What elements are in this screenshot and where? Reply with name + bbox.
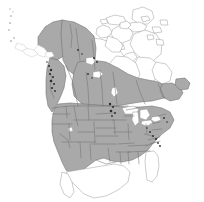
- range-map-figure: [0, 0, 204, 202]
- marker-north-1: [77, 49, 79, 51]
- marker-ne-2: [166, 121, 168, 123]
- arctic-islet-g: [156, 39, 164, 45]
- marker-north-6: [91, 77, 93, 79]
- marker-bc-1: [48, 65, 50, 67]
- marker-app-6: [159, 145, 161, 147]
- marker-app-2: [152, 135, 154, 137]
- north-america-map: [0, 0, 204, 202]
- marker-north-3: [93, 57, 95, 59]
- aleutian-speck-7: [12, 11, 13, 12]
- marker-central-2: [112, 106, 114, 108]
- great-salt-lake: [68, 127, 73, 132]
- arctic-islet-h: [147, 35, 154, 40]
- arctic-islet-f: [160, 20, 168, 25]
- marker-central-4: [114, 112, 116, 114]
- marker-north-2: [81, 53, 83, 55]
- marker-app-4: [157, 142, 159, 144]
- marker-bc-7: [51, 87, 53, 89]
- marker-bc-2: [50, 69, 52, 71]
- aleutian-speck-5: [10, 15, 12, 17]
- aleutian-speck-3: [8, 29, 10, 31]
- marker-central-3: [110, 110, 113, 113]
- aleutian-speck-1: [10, 40, 12, 42]
- aleutian-speck-6: [9, 8, 11, 10]
- marker-app-5: [146, 127, 148, 129]
- arctic-islet-c: [152, 27, 162, 33]
- marker-central-1: [109, 103, 111, 105]
- marker-bc-4: [52, 76, 54, 78]
- marker-bc-6: [53, 83, 55, 85]
- marker-central-5: [111, 115, 113, 117]
- aleutian-speck-2: [13, 37, 15, 39]
- marker-bc-8: [54, 90, 56, 92]
- marker-bc-9: [46, 61, 48, 63]
- marker-ne-1: [163, 117, 165, 119]
- marker-north-5: [87, 73, 89, 75]
- marker-app-1: [149, 131, 151, 133]
- marker-bc-3: [49, 73, 51, 75]
- marker-app-3: [155, 138, 157, 140]
- marker-bc-5: [50, 80, 53, 83]
- marker-north-4: [96, 61, 98, 63]
- aleutian-speck-4: [9, 22, 11, 24]
